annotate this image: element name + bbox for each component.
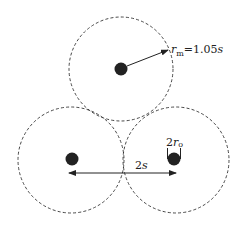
rod-influence-diagram: rm=1.05s 2s 2ro bbox=[0, 0, 246, 226]
rod-dot-right bbox=[168, 153, 181, 166]
rod-dot-top bbox=[115, 63, 128, 76]
rod-diameter-label: 2ro bbox=[166, 136, 183, 149]
radius-arrow bbox=[127, 50, 168, 66]
rod-dot-left bbox=[66, 153, 79, 166]
radius-label: rm=1.05s bbox=[171, 43, 224, 58]
spacing-label: 2s bbox=[135, 159, 148, 172]
